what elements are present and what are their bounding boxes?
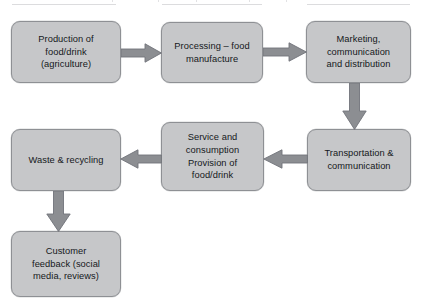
node-service-consumption-label: Service and consumption Provision of foo… (167, 131, 258, 181)
scan-artifact-line (12, 4, 116, 5)
node-customer-feedback[interactable]: Customer feedback (social media, reviews… (11, 231, 121, 297)
arrow-left-icon-transportation-to-service (263, 149, 308, 169)
node-marketing-label: Marketing, communication and distributio… (312, 33, 405, 71)
scan-artifact-tick (286, 0, 287, 2)
arrow-down-icon-waste-to-customer-feedback (46, 191, 71, 232)
scan-artifact-tick (158, 0, 159, 2)
node-production[interactable]: Production of food/drink (agriculture) (11, 21, 121, 83)
node-service-consumption[interactable]: Service and consumption Provision of foo… (161, 122, 264, 191)
arrow-right-icon-processing-to-marketing (263, 42, 307, 62)
node-transportation-label: Transportation & communication (313, 147, 405, 172)
node-marketing[interactable]: Marketing, communication and distributio… (306, 21, 411, 83)
node-customer-feedback-label: Customer feedback (social media, reviews… (17, 245, 115, 283)
scan-artifact-line (162, 4, 262, 5)
node-transportation[interactable]: Transportation & communication (307, 129, 411, 191)
node-processing-label: Processing – food manufacture (167, 40, 257, 65)
scan-artifact-line (307, 4, 410, 5)
node-waste-recycling[interactable]: Waste & recycling (11, 129, 121, 191)
flowchart-canvas: Production of food/drink (agriculture) P… (0, 0, 422, 307)
node-processing[interactable]: Processing – food manufacture (161, 22, 263, 83)
scan-artifact-tick (249, 0, 250, 2)
scan-artifact-tick (112, 0, 113, 2)
arrow-left-icon-service-to-waste (120, 149, 162, 169)
node-waste-recycling-label: Waste & recycling (17, 154, 115, 167)
arrow-down-icon-marketing-to-transportation (342, 83, 367, 130)
arrow-right-icon-production-to-processing (121, 43, 162, 63)
node-production-label: Production of food/drink (agriculture) (17, 33, 115, 71)
scan-artifact-tick (196, 0, 197, 2)
